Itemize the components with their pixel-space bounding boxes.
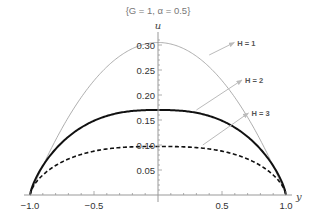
y-tick-label: 0.30 [137, 40, 156, 51]
annotation-arrow [203, 113, 249, 145]
chart-title: {G = 1, α = 0.5} [126, 5, 191, 16]
x-tick-label: −1.0 [21, 200, 40, 211]
annotations: H = 1H = 2H = 3 [196, 39, 269, 146]
x-tick-label: 0.5 [215, 200, 228, 211]
x-tick-label: −0.5 [85, 200, 104, 211]
y-tick-label: 0.05 [137, 165, 156, 176]
annotation-label: H = 1 [237, 39, 255, 48]
x-axis: −1.0−0.50.51.0 [21, 191, 293, 211]
annotation-label: H = 3 [251, 109, 269, 118]
y-tick-label: 0.15 [137, 115, 156, 126]
annotation-label: H = 2 [245, 76, 263, 85]
y-axis-label: u [155, 20, 161, 31]
y-tick-label: 0.20 [137, 90, 156, 101]
y-axis: 0.050.100.150.200.250.30 [137, 32, 163, 202]
line-chart: {G = 1, α = 0.5} −1.0−0.50.51.0 0.050.10… [0, 0, 316, 223]
y-tick-label: 0.10 [137, 140, 156, 151]
annotation-arrow [196, 80, 242, 110]
annotation-arrow [209, 43, 234, 56]
y-tick-label: 0.25 [137, 65, 156, 76]
x-tick-label: 1.0 [279, 200, 292, 211]
x-axis-label: y [295, 191, 302, 202]
